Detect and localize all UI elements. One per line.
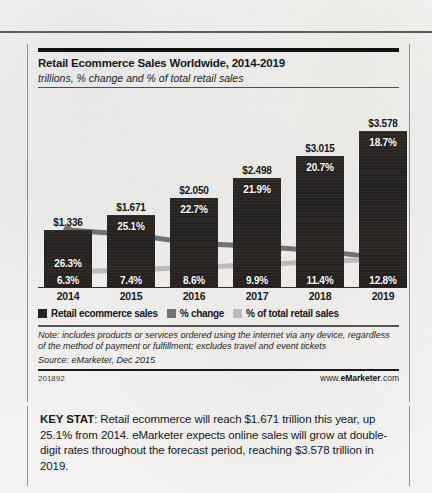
chart-title: Retail Ecommerce Sales Worldwide, 2014-2… [38,57,399,70]
bar-value-label: $1.671 [116,202,145,213]
pct-total-label: 11.4% [296,275,344,286]
x-axis-tick: 2016 [170,290,218,302]
legend-item-bars: Retail ecommerce sales [38,308,158,319]
bar-group: $2.05022.7%8.6% [170,185,218,288]
plot-area: $1.33626.3%6.3%$1.67125.1%7.4%$2.05022.7… [38,92,399,288]
legend-item-pct-total: % of total retail sales [233,308,339,319]
key-stat-label: KEY STAT [40,413,94,425]
bar-group: $3.57818.7%12.8% [359,118,407,289]
bar-value-label: $2.050 [179,185,208,196]
legend-swatch-icon [167,309,176,318]
chart-note: Note: includes products or services orde… [38,330,399,352]
chart-footer: 201892 www.eMarketer.com [38,373,399,383]
x-axis-tick: 2018 [296,290,344,302]
chart-id: 201892 [38,374,65,383]
chart-subtitle: trillions, % change and % of total retai… [38,72,399,84]
x-axis-tick: 2019 [359,290,407,302]
chart-legend: Retail ecommerce sales % change % of tot… [38,308,399,319]
bar: 21.9%9.9% [233,178,281,288]
pct-change-label: 18.7% [359,137,407,148]
emarketer-brand: www.eMarketer.com [320,373,399,383]
pct-total-label: 7.4% [107,275,155,286]
bar-group: $3.01520.7%11.4% [296,143,344,289]
pct-change-label: 21.9% [233,184,281,195]
note-divider [38,325,399,326]
bar-value-label: $2.498 [242,165,271,176]
bar: 18.7%12.8% [359,131,407,289]
brand-prefix: www. [320,373,340,383]
legend-label: % change [180,308,224,319]
page-top-divider [0,31,432,33]
x-axis-tick: 2017 [233,290,281,302]
header-divider [38,87,399,88]
legend-swatch-icon [38,309,47,318]
key-stat-box: KEY STAT: Retail ecommerce will reach $1… [27,406,410,486]
bar-value-label: $1.336 [53,217,82,228]
bar-value-label: $3.578 [368,118,397,129]
key-stat-text: KEY STAT: Retail ecommerce will reach $1… [40,412,397,475]
pct-total-label: 8.6% [170,275,218,286]
bar-group: $1.67125.1%7.4% [107,202,155,289]
brand-name: eMarketer [340,373,380,383]
pct-total-label: 12.8% [359,275,407,286]
legend-item-pct-change: % change [167,308,224,319]
pct-change-label: 20.7% [296,162,344,173]
brand-suffix: .com [381,373,399,383]
x-axis-tick: 2015 [107,290,155,302]
legend-label: Retail ecommerce sales [51,308,158,319]
chart-card: Retail Ecommerce Sales Worldwide, 2014-2… [27,44,410,402]
bar: 22.7%8.6% [170,198,218,288]
bar: 20.7%11.4% [296,156,344,289]
legend-swatch-icon [233,309,242,318]
x-axis-labels: 201420152016201720182019 [38,290,399,305]
line-series-layer [38,92,399,288]
title-accent-bar [38,48,399,52]
bar-group: $1.33626.3%6.3% [44,217,92,289]
bar-value-label: $3.015 [305,143,334,154]
pct-change-label: 25.1% [107,221,155,232]
x-axis-tick: 2014 [44,290,92,302]
bar: 25.1%7.4% [107,215,155,289]
legend-label: % of total retail sales [246,308,339,319]
bar-group: $2.49821.9%9.9% [233,165,281,288]
footer-divider [38,369,399,372]
pct-change-label: 26.3% [44,258,92,269]
pct-total-label: 6.3% [44,275,92,286]
pct-change-label: 22.7% [170,204,218,215]
pct-total-label: 9.9% [233,275,281,286]
bar: 26.3%6.3% [44,230,92,289]
chart-source: Source: eMarketer, Dec 2015 [38,355,399,365]
